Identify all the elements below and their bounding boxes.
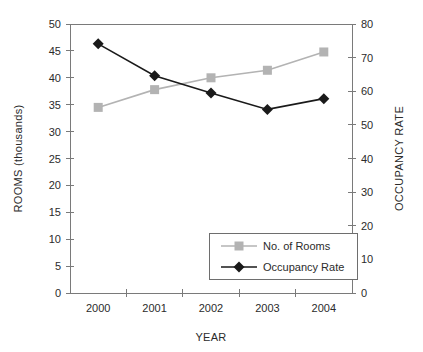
right-axis-tick-label: 50 <box>361 119 373 131</box>
left-axis-tick-label: 35 <box>49 99 61 111</box>
series-marker-square <box>94 103 103 112</box>
right-axis-tick-label: 30 <box>361 186 373 198</box>
right-axis-tick-label: 60 <box>361 85 373 97</box>
chart-figure: 05101520253035404550ROOMS (thousands) 01… <box>0 0 423 352</box>
left-axis-title: ROOMS (thousands) <box>12 105 24 213</box>
series-marker-square <box>207 73 216 82</box>
right-axis-tick-label: 70 <box>361 52 373 64</box>
left-axis-tick-label: 50 <box>49 18 61 30</box>
left-axis-tick-label: 40 <box>49 72 61 84</box>
left-axis-tick-label: 15 <box>49 206 61 218</box>
left-axis-tick-label: 10 <box>49 233 61 245</box>
x-axis-tick-label: 2004 <box>312 302 336 314</box>
legend-item: No. of Rooms <box>221 240 331 252</box>
series-marker-diamond <box>318 93 329 104</box>
left-axis-tick-label: 30 <box>49 126 61 138</box>
series-layer <box>93 38 330 115</box>
legend-item-label: No. of Rooms <box>263 240 331 252</box>
series-marker-diamond <box>206 87 217 98</box>
left-axis-tick-label: 25 <box>49 153 61 165</box>
legend-item-label: Occupancy Rate <box>263 261 344 273</box>
x-axis-title: YEAR <box>195 331 226 343</box>
series-marker-diamond <box>262 104 273 115</box>
dual-axis-line-chart: 05101520253035404550ROOMS (thousands) 01… <box>0 0 423 352</box>
series-marker-diamond <box>149 70 160 81</box>
legend-marker-square <box>235 242 244 251</box>
series-1 <box>94 47 329 111</box>
right-axis-tick-label: 0 <box>361 287 367 299</box>
left-axis-tick-label: 20 <box>49 179 61 191</box>
right-axis-tick-label: 20 <box>361 220 373 232</box>
legend-item: Occupancy Rate <box>221 261 344 273</box>
left-axis-tick-label: 5 <box>55 260 61 272</box>
right-axis-tick-label: 40 <box>361 153 373 165</box>
right-axis-tick-label: 80 <box>361 18 373 30</box>
x-axis: 20002001200220032004YEAR <box>70 289 352 343</box>
left-axis-tick-label: 45 <box>49 45 61 57</box>
series-marker-diamond <box>93 38 104 49</box>
right-axis-title: OCCUPANCY RATE <box>393 106 405 211</box>
x-axis-tick-label: 2001 <box>142 302 166 314</box>
x-axis-tick-label: 2002 <box>199 302 223 314</box>
x-axis-tick-label: 2003 <box>255 302 279 314</box>
left-axis-tick-label: 0 <box>55 287 61 299</box>
series-marker-square <box>150 85 159 94</box>
x-axis-tick-label: 2000 <box>86 302 110 314</box>
right-axis-tick-label: 10 <box>361 253 373 265</box>
series-marker-square <box>319 47 328 56</box>
series-marker-square <box>263 66 272 75</box>
left-axis: 05101520253035404550ROOMS (thousands) <box>12 18 74 299</box>
legend: No. of RoomsOccupancy Rate <box>209 233 357 279</box>
